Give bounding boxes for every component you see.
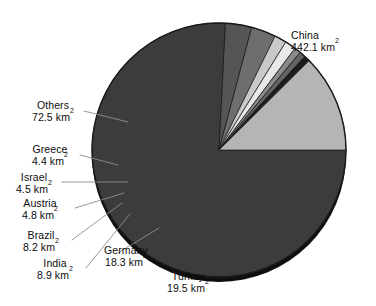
slice-label-greece: Greece 4.4 km2 xyxy=(20,144,80,167)
slice-label-brazil-value: 8.2 km2 xyxy=(13,242,69,254)
slice-label-turkey: Turkey 19.5 km2 xyxy=(158,271,218,294)
slice-label-israel: Israel 4.5 km2 xyxy=(6,172,62,195)
slice-label-india-value: 8.9 km2 xyxy=(26,270,84,282)
slice-label-china: China 442.1 km2 xyxy=(291,30,339,53)
pie-chart: China 442.1 km2 Others 72.5 km2 Greece 4… xyxy=(0,0,376,306)
slice-label-germany-value: 18.3 km2 xyxy=(95,257,157,269)
slice-label-germany: Germany 18.3 km2 xyxy=(95,245,157,268)
pie-slice-group xyxy=(92,23,346,277)
slice-label-others-value: 72.5 km2 xyxy=(22,112,84,124)
slice-label-austria-value: 4.8 km2 xyxy=(9,210,71,222)
slice-label-turkey-value: 19.5 km2 xyxy=(158,283,218,295)
slice-label-others: Others 72.5 km2 xyxy=(22,100,84,123)
slice-label-austria: Austria 4.8 km2 xyxy=(9,198,71,221)
slice-label-india: India 8.9 km2 xyxy=(26,258,84,281)
slice-label-israel-value: 4.5 km2 xyxy=(6,184,62,196)
slice-label-brazil: Brazil 8.2 km2 xyxy=(13,230,69,253)
slice-label-greece-value: 4.4 km2 xyxy=(20,156,80,168)
slice-label-china-value: 442.1 km2 xyxy=(291,42,339,54)
